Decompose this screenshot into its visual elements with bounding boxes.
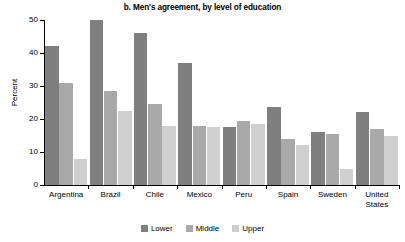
bar-chart: b. Men's agreement, by level of educatio… [0, 0, 405, 242]
bar-upper [207, 127, 221, 185]
bar-group [222, 20, 266, 185]
legend-label: Lower [151, 224, 173, 233]
bar-group [266, 20, 310, 185]
bar-lower [90, 20, 104, 185]
bar-upper [118, 111, 132, 185]
bar-group [310, 20, 354, 185]
x-tick-mark [266, 185, 267, 189]
y-tick: 0 [44, 185, 45, 186]
bar-upper [251, 124, 265, 185]
y-tick-mark [40, 185, 44, 186]
bar-middle [104, 91, 118, 185]
x-category-label: Mexico [177, 190, 221, 200]
bar-group [44, 20, 88, 185]
bar-middle [370, 129, 384, 185]
legend-swatch-icon [232, 225, 239, 232]
x-tick-mark [399, 185, 400, 189]
y-tick-label: 0 [8, 180, 38, 189]
bar-middle [193, 126, 207, 185]
legend-swatch-icon [186, 225, 193, 232]
x-category-label: Sweden [310, 190, 354, 200]
bar-upper [384, 136, 398, 186]
bar-upper [162, 126, 176, 185]
bar-group [88, 20, 132, 185]
bar-upper [296, 145, 310, 185]
bar-lower [267, 107, 281, 185]
x-tick-mark [88, 185, 89, 189]
y-tick-label: 40 [8, 48, 38, 57]
y-tick-label: 10 [8, 147, 38, 156]
bar-lower [178, 63, 192, 185]
bar-middle [281, 139, 295, 185]
bar-lower [134, 33, 148, 185]
x-tick-mark [177, 185, 178, 189]
legend-swatch-icon [141, 225, 148, 232]
bar-group [355, 20, 399, 185]
legend-label: Upper [242, 224, 264, 233]
bar-group [133, 20, 177, 185]
bar-middle [148, 104, 162, 185]
y-tick-label: 50 [8, 15, 38, 24]
bar-lower [45, 46, 59, 185]
y-tick-label: 30 [8, 81, 38, 90]
x-tick-mark [310, 185, 311, 189]
bar-lower [223, 127, 237, 185]
bar-upper [340, 169, 354, 186]
x-category-label: Peru [222, 190, 266, 200]
bar-middle [326, 134, 340, 185]
x-category-label: Argentina [44, 190, 88, 200]
y-tick-label: 20 [8, 114, 38, 123]
bar-lower [311, 132, 325, 185]
legend-item-lower: Lower [141, 224, 173, 233]
bar-group [177, 20, 221, 185]
legend-label: Middle [196, 224, 220, 233]
bar-lower [356, 112, 370, 185]
bar-upper [74, 159, 88, 185]
x-category-label: Chile [133, 190, 177, 200]
chart-title: b. Men's agreement, by level of educatio… [0, 3, 405, 13]
plot-area [44, 20, 399, 185]
x-tick-mark [222, 185, 223, 189]
legend-item-upper: Upper [232, 224, 264, 233]
x-category-label: Brazil [88, 190, 132, 200]
x-category-label: Spain [266, 190, 310, 200]
legend-item-middle: Middle [186, 224, 220, 233]
chart-legend: LowerMiddleUpper [0, 224, 405, 233]
bar-middle [59, 83, 73, 185]
x-category-label: United States [355, 190, 399, 209]
x-tick-mark [355, 185, 356, 189]
x-tick-mark [133, 185, 134, 189]
bar-middle [237, 121, 251, 185]
